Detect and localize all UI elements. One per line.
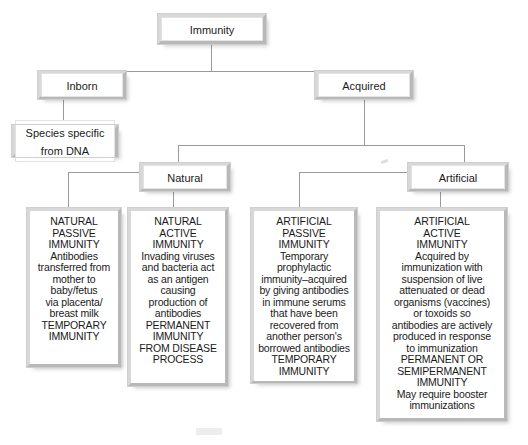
node-artificial[interactable]: Artificial [408,163,508,191]
node-species-specific[interactable]: Species specific from DNA [12,125,118,157]
stray-mark [381,159,389,164]
node-acquired-inner: Acquired [318,73,410,97]
node-inborn[interactable]: Inborn [38,71,126,99]
connector-bus-natural [178,145,179,163]
node-immunity-inner: Immunity [161,17,263,41]
node-artificial-active-immunity[interactable]: ARTIFICIAL ACTIVE IMMUNITY Acquired by i… [377,208,507,421]
node-natural-passive-heading: NATURAL PASSIVE IMMUNITY [33,216,115,251]
connector-acquired-stem [364,99,365,145]
node-artificial-label: Artificial [439,172,478,184]
node-natural-passive-immunity[interactable]: NATURAL PASSIVE IMMUNITY Antibodies tran… [27,208,121,367]
node-artificial-passive-body: Temporary prophylactic immunity–acquired… [257,251,351,378]
node-immunity[interactable]: Immunity [158,14,266,44]
node-immunity-label: Immunity [190,24,235,36]
node-natural-active-body: Invading viruses and bacteria act as an … [134,251,222,366]
node-natural-active-immunity[interactable]: NATURAL ACTIVE IMMUNITY Invading viruses… [128,208,228,386]
node-acquired-label: Acquired [342,80,385,92]
node-artificial-passive-inner: ARTIFICIAL PASSIVE IMMUNITY Temporary pr… [254,211,354,381]
connector-natural-right [173,191,174,208]
node-artificial-active-heading: ARTIFICIAL ACTIVE IMMUNITY [383,216,501,251]
node-natural-passive-inner: NATURAL PASSIVE IMMUNITY Antibodies tran… [30,211,118,347]
connector-natural-bus [68,172,144,173]
node-artificial-active-body: Acquired by immunization with suspension… [383,251,501,412]
connector-artificial-left [299,172,300,208]
connector-root-stem [211,44,212,72]
node-acquired[interactable]: Acquired [315,71,413,99]
node-species-specific-inner: Species specific from DNA [15,120,115,162]
immunity-flowchart: Immunity Inborn Acquired Species specifi… [0,0,528,445]
node-inborn-label: Inborn [66,80,97,92]
node-natural-passive-body: Antibodies transferred from mother to ba… [33,251,115,343]
connector-natural-left [68,172,69,208]
connector-artificial-right [440,191,441,208]
node-species-specific-label: Species specific from DNA [26,127,105,157]
node-artificial-passive-heading: ARTIFICIAL PASSIVE IMMUNITY [257,216,351,251]
node-artificial-active-inner: ARTIFICIAL ACTIVE IMMUNITY Acquired by i… [380,211,504,416]
node-natural[interactable]: Natural [140,163,230,191]
page-artifact-mark [196,428,222,435]
node-natural-active-heading: NATURAL ACTIVE IMMUNITY [134,216,222,251]
node-natural-label: Natural [167,172,202,184]
node-natural-active-inner: NATURAL ACTIVE IMMUNITY Invading viruses… [131,211,225,370]
node-inborn-inner: Inborn [41,73,123,97]
node-artificial-passive-immunity[interactable]: ARTIFICIAL PASSIVE IMMUNITY Temporary pr… [251,208,357,383]
node-artificial-inner: Artificial [411,165,505,189]
connector-bus-artificial [464,145,465,163]
connector-level3-bus [178,145,464,146]
node-natural-inner: Natural [143,165,227,189]
connector-artificial-bus [299,172,412,173]
